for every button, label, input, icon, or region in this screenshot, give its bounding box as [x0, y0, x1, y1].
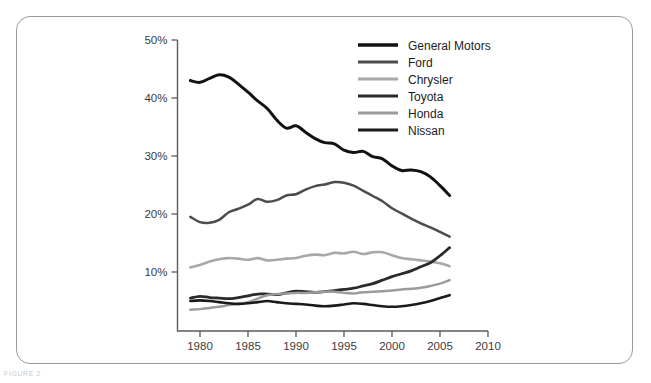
chart-legend: General MotorsFordChryslerToyotaHondaNis… [358, 39, 491, 138]
legend-item-honda[interactable]: Honda [358, 107, 444, 121]
legend-label: Ford [408, 56, 433, 70]
legend-item-nissan[interactable]: Nissan [358, 124, 445, 138]
figure-caption: FIGURE 2 [4, 370, 41, 377]
x-tick-label: 2005 [427, 340, 453, 352]
y-tick-label: 50% [144, 34, 167, 46]
y-tick-label: 30% [144, 150, 167, 162]
legend-label: Honda [408, 107, 444, 121]
legend-label: Toyota [408, 90, 444, 104]
x-tick-label: 2000 [379, 340, 405, 352]
x-tick-label: 2010 [475, 340, 501, 352]
x-tick-label: 1995 [331, 340, 357, 352]
y-tick-label: 20% [144, 208, 167, 220]
series-line-ford [190, 182, 449, 237]
x-tick-label: 1990 [283, 340, 309, 352]
y-tick-label: 40% [144, 92, 167, 104]
legend-item-general-motors[interactable]: General Motors [358, 39, 491, 53]
series-line-chrysler [190, 252, 449, 268]
legend-item-chrysler[interactable]: Chrysler [358, 73, 453, 87]
y-axis-ticks: 10%20%30%40%50% [144, 34, 177, 278]
legend-item-toyota[interactable]: Toyota [358, 90, 444, 104]
x-axis-ticks: 1980198519901995200020052010 [187, 331, 501, 352]
page-root: 10%20%30%40%50% 198019851990199520002005… [0, 0, 651, 383]
chart-area: 10%20%30%40%50% 198019851990199520002005… [0, 0, 651, 383]
legend-label: Chrysler [408, 73, 453, 87]
legend-item-ford[interactable]: Ford [358, 56, 433, 70]
line-chart-svg: 10%20%30%40%50% 198019851990199520002005… [0, 0, 651, 383]
legend-label: General Motors [408, 39, 491, 53]
y-tick-label: 10% [144, 266, 167, 278]
x-tick-label: 1985 [235, 340, 261, 352]
x-tick-label: 1980 [187, 340, 213, 352]
legend-label: Nissan [408, 124, 445, 138]
